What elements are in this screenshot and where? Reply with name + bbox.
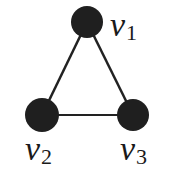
node-v3 [117,99,149,131]
node-v1-label: v1 [110,6,137,45]
node-v2-label: v2 [25,130,52,169]
node-v3-label: v3 [120,130,147,169]
node-v2 [25,98,59,132]
node-v1 [71,6,103,38]
triangle-graph: v1 v2 v3 [0,0,170,175]
